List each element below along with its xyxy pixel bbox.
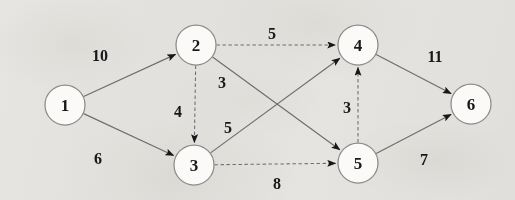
node-1[interactable]: 1 [45,85,85,125]
graph-diagram-canvas: 123456 106453583117 [0,0,515,200]
edge-weight-2-to-5: 3 [218,74,226,91]
node-4[interactable]: 4 [338,25,378,65]
node-label-2: 2 [192,36,201,55]
edge-weight-1-to-2: 10 [92,47,108,64]
edge-weights-layer: 106453583117 [92,25,443,192]
edge-3-to-4 [211,58,340,153]
edge-weight-2-to-4: 5 [268,25,276,42]
node-label-3: 3 [190,156,199,175]
edge-weight-5-to-4: 3 [343,99,351,116]
edge-weight-1-to-3: 6 [94,150,102,167]
node-2[interactable]: 2 [176,25,216,65]
edge-weight-4-to-6: 11 [427,48,442,65]
node-label-6: 6 [467,95,476,114]
node-6[interactable]: 6 [451,84,491,124]
graph-svg: 123456 106453583117 [0,0,515,200]
edge-weight-3-to-4: 5 [224,119,232,136]
node-label-5: 5 [354,154,363,173]
edge-weight-2-to-3: 4 [174,103,182,120]
edge-5-to-6 [376,114,451,153]
node-5[interactable]: 5 [338,143,378,183]
edge-3-to-5 [214,163,335,164]
node-label-4: 4 [354,36,363,55]
node-label-1: 1 [61,96,70,115]
edges-layer [84,45,451,165]
edge-weight-3-to-5: 8 [273,175,281,192]
edge-2-to-5 [213,57,340,150]
node-3[interactable]: 3 [174,145,214,185]
edge-weight-5-to-6: 7 [420,151,428,168]
edge-2-to-3 [194,65,195,142]
